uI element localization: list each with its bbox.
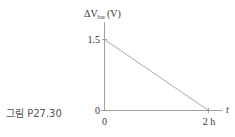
y-tick-label-0: 0 — [95, 105, 100, 116]
y-axis-label: ΔVbat(V) — [84, 8, 121, 20]
voltage-line — [105, 40, 209, 111]
x-axis-label: t — [226, 104, 229, 115]
figure-caption: 그림 P27.30 — [6, 105, 62, 120]
y-tick-label-1-5: 1.5 — [88, 34, 101, 45]
x-tick-label-2h: 2 h — [203, 116, 216, 127]
x-tick-label-0: 0 — [102, 116, 107, 127]
